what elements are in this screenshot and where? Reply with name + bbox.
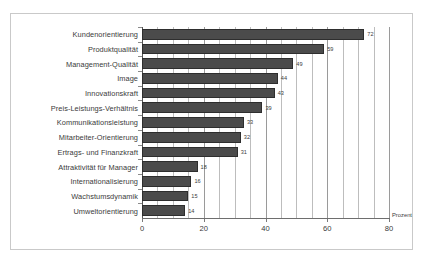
bar-container: 44 xyxy=(142,71,389,86)
bar-row: Attraktivität für Manager18 xyxy=(11,159,414,174)
bar-value-label: 39 xyxy=(265,105,271,111)
bar-value-label: 72 xyxy=(367,31,373,37)
bar[interactable] xyxy=(142,191,188,202)
bar[interactable] xyxy=(142,58,293,69)
bar-row: Ertrags- und Finanzkraft31 xyxy=(11,145,414,160)
x-axis-title: Prozent xyxy=(392,212,412,218)
x-axis-tick xyxy=(389,219,390,222)
x-axis-tick-label: 40 xyxy=(261,224,269,233)
bar-container: 14 xyxy=(142,203,389,218)
bar-value-label: 16 xyxy=(194,178,200,184)
bar-row: Innovationskraft43 xyxy=(11,86,414,101)
bar-row: Mitarbeiter-Orientierung32 xyxy=(11,130,414,145)
bar-container: 15 xyxy=(142,189,389,204)
category-label: Produktqualität xyxy=(88,45,138,54)
bar-value-label: 33 xyxy=(247,119,253,125)
bar-value-label: 43 xyxy=(278,90,284,96)
bar-row: Umweltorientierung14 xyxy=(11,203,414,218)
x-axis-tick-label: 20 xyxy=(200,224,208,233)
bar-container: 33 xyxy=(142,115,389,130)
bar-container: 18 xyxy=(142,159,389,174)
category-label: Innovationskraft xyxy=(85,89,138,98)
category-label: Kommunikationsleistung xyxy=(57,118,138,127)
x-axis-tick-label: 80 xyxy=(385,224,393,233)
chart-figure: Kundenorientierung72Produktqualität59Man… xyxy=(10,13,413,250)
bar-row: Internationalisierung16 xyxy=(11,174,414,189)
category-label: Preis-Leistungs-Verhältnis xyxy=(51,103,138,112)
bar-row: Kundenorientierung72 xyxy=(11,27,414,42)
category-label: Attraktivität für Manager xyxy=(58,162,138,171)
bar-row: Produktqualität59 xyxy=(11,42,414,57)
bar-value-label: 49 xyxy=(296,61,302,67)
category-label: Wachstumsdynamik xyxy=(71,191,138,200)
bar-value-label: 31 xyxy=(241,149,247,155)
bar-row: Management-Qualität49 xyxy=(11,56,414,71)
bar-value-label: 14 xyxy=(188,208,194,214)
bar[interactable] xyxy=(142,117,244,128)
x-axis-tick xyxy=(142,219,143,222)
category-label: Kundenorientierung xyxy=(73,30,138,39)
bar-container: 43 xyxy=(142,86,389,101)
bar-row: Wachstumsdynamik15 xyxy=(11,189,414,204)
bar[interactable] xyxy=(142,161,198,172)
bar[interactable] xyxy=(142,102,262,113)
bar[interactable] xyxy=(142,176,191,187)
bar-value-label: 18 xyxy=(201,164,207,170)
bar-value-label: 32 xyxy=(244,134,250,140)
bar-container: 59 xyxy=(142,42,389,57)
category-label: Image xyxy=(117,74,138,83)
x-axis-tick xyxy=(266,219,267,222)
bar[interactable] xyxy=(142,132,241,143)
bar[interactable] xyxy=(142,205,185,216)
category-label: Management-Qualität xyxy=(66,59,138,68)
bar-row: Preis-Leistungs-Verhältnis39 xyxy=(11,100,414,115)
bar-container: 31 xyxy=(142,145,389,160)
bar[interactable] xyxy=(142,44,324,55)
bar-value-label: 59 xyxy=(327,46,333,52)
bar-value-label: 44 xyxy=(281,75,287,81)
category-label: Umweltorientierung xyxy=(73,206,138,215)
x-axis-tick-label: 60 xyxy=(323,224,331,233)
x-axis-tick xyxy=(204,219,205,222)
bar-row: Image44 xyxy=(11,71,414,86)
bar-chart: Kundenorientierung72Produktqualität59Man… xyxy=(11,14,412,249)
bar-container: 32 xyxy=(142,130,389,145)
category-label: Ertrags- und Finanzkraft xyxy=(58,147,138,156)
bar-rows: Kundenorientierung72Produktqualität59Man… xyxy=(11,27,414,218)
bar-container: 72 xyxy=(142,27,389,42)
bar-container: 16 xyxy=(142,174,389,189)
bar-row: Kommunikationsleistung33 xyxy=(11,115,414,130)
x-axis: 020406080 xyxy=(142,219,389,239)
x-axis-tick xyxy=(327,219,328,222)
category-label: Internationalisierung xyxy=(70,177,138,186)
bar[interactable] xyxy=(142,147,238,158)
x-axis-tick-label: 0 xyxy=(140,224,144,233)
bar[interactable] xyxy=(142,88,275,99)
bar-container: 39 xyxy=(142,100,389,115)
bar-value-label: 15 xyxy=(191,193,197,199)
category-label: Mitarbeiter-Orientierung xyxy=(59,133,138,142)
bar-container: 49 xyxy=(142,56,389,71)
bar[interactable] xyxy=(142,73,278,84)
bar[interactable] xyxy=(142,29,364,40)
